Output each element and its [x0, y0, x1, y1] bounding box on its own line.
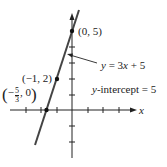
label-point-m1-2: (−1, 2) — [22, 73, 52, 84]
label-x-axis: x — [139, 105, 144, 116]
label-point-0-5: (0, 5) — [78, 26, 102, 37]
linear-equation-graph: (0, 5) (−1, 2) (−53, 0) y = 3x + 5 y-int… — [0, 0, 167, 167]
point-x-intercept — [44, 108, 48, 112]
point-m1-2 — [55, 77, 59, 81]
pointer-arrow-icon — [67, 54, 73, 58]
y-axis-arrow-icon — [70, 13, 75, 20]
label-y-intercept: y-intercept = 5 — [92, 84, 156, 95]
equation-pointer — [70, 55, 97, 63]
point-0-5 — [70, 29, 74, 33]
fraction-5-3: 53 — [15, 87, 19, 104]
x-axis-arrow-icon — [130, 108, 137, 113]
label-x-intercept: (−53, 0) — [2, 84, 37, 104]
label-equation: y = 3x + 5 — [101, 60, 145, 71]
